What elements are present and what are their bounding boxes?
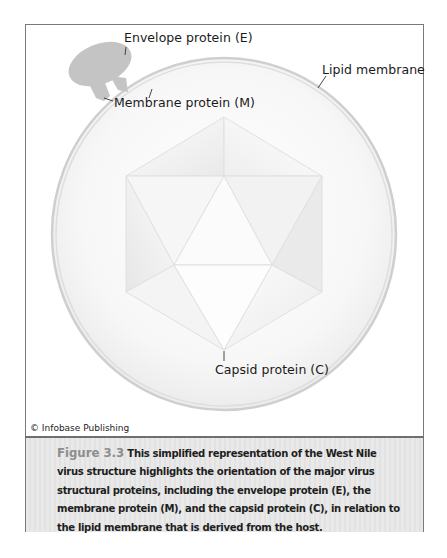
figure-number: Figure 3.3 [57,445,124,460]
lipid-membrane-label: Lipid membrane [322,62,425,77]
figure-caption: Figure 3.3 This simplified representatio… [26,438,423,532]
publisher-credit: © Infobase Publishing [30,423,129,433]
membrane-protein-label: Membrane protein (M) [114,95,255,110]
caption-body: Figure 3.3 This simplified representatio… [57,444,402,538]
capsid-protein-label: Capsid protein (C) [215,362,329,377]
envelope-protein-label: Envelope protein (E) [124,30,253,45]
